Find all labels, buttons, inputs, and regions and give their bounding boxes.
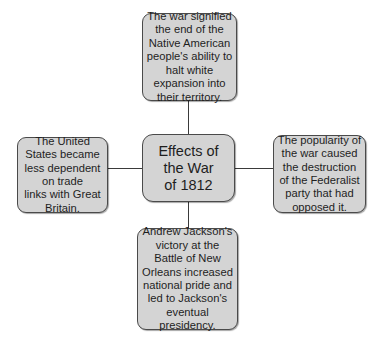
node-center-text: Effects of the War of 1812 <box>158 143 218 194</box>
node-left-text: The United States became less dependent … <box>24 135 100 215</box>
connector-right <box>234 168 273 169</box>
node-left-trade-links: The United States became less dependent … <box>17 137 108 213</box>
node-right-federalist-party: The popularity of the war caused the des… <box>273 135 366 213</box>
node-top-native-american: The war signified the end of the Native … <box>142 13 237 101</box>
node-bottom-text: Andrew Jackson's victory at the Battle o… <box>142 225 233 332</box>
node-bottom-andrew-jackson: Andrew Jackson's victory at the Battle o… <box>137 228 238 330</box>
node-center-effects-war-1812: Effects of the War of 1812 <box>142 134 235 202</box>
node-right-text: The popularity of the war caused the des… <box>278 134 361 214</box>
connector-top <box>188 100 189 134</box>
concept-map: The war signified the end of the Native … <box>0 0 382 344</box>
connector-left <box>107 168 142 169</box>
connector-bottom <box>188 201 189 228</box>
node-top-text: The war signified the end of the Native … <box>147 10 232 104</box>
